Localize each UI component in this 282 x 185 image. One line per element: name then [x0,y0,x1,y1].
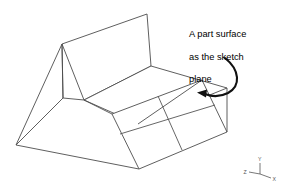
triad-y-label: Y [258,156,262,162]
figure-root: Y X Z A part surface as the sketch plane [0,0,282,185]
triad-x-axis [260,174,271,178]
front-base-edge [16,145,139,169]
axis-triad: Y X Z [244,156,277,182]
triad-x-label: X [273,176,277,182]
triad-z-axis [249,172,260,174]
callout-line-3: plane [189,74,281,85]
left-triangular-face [16,44,63,145]
callout-text-block: A part surface as the sketch plane [189,18,281,96]
seat-left-edge [63,98,84,100]
callout-line-2: as the sketch [189,52,281,63]
triad-z-label: Z [244,169,247,175]
callout-line-1: A part surface [189,29,281,40]
